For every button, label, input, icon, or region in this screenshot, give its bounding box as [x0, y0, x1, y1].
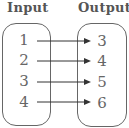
mapping-arrows	[0, 0, 129, 128]
